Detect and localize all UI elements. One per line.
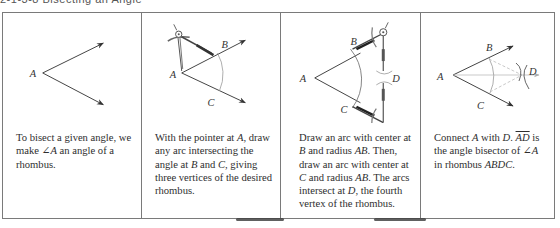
vertex-label-c: C <box>341 104 349 115</box>
vertex-label-a: A <box>436 71 444 82</box>
step-3-figure: A B C D <box>281 13 420 123</box>
vertex-label-c: C <box>477 100 485 111</box>
compass-upper-icon <box>352 22 388 71</box>
step-4-figure: A B C D <box>421 13 555 123</box>
angle-bisector-diagram: A B C D <box>421 13 555 123</box>
step-3-panel: A B C D Draw an arc with center at B and… <box>281 13 421 218</box>
vertex-label-c: C <box>208 97 216 108</box>
compass-lower-icon <box>352 83 384 123</box>
step-1-caption: To bisect a given angle, we make ∠A an a… <box>16 131 135 171</box>
arc-from-a-diagram: A B C <box>142 13 280 123</box>
arcs-from-b-and-c-diagram: A B C D <box>281 13 420 123</box>
figure-title: 2-1-3-8 Bisecting an Angle <box>0 0 142 5</box>
step-3-caption: Draw an arc with center at B and radius … <box>299 131 414 211</box>
construction-steps-table: A To bisect a given angle, we make ∠A an… <box>2 12 555 219</box>
step-2-panel: A B C With the pointer at A, draw any ar… <box>142 13 281 218</box>
step-2-caption: With the pointer at A, draw any arc inte… <box>155 131 274 197</box>
page-shadow-1 <box>236 218 284 221</box>
step-4-caption: Connect A with D. AD is the angle bisect… <box>434 131 549 171</box>
step-2-figure: A B C <box>142 13 280 123</box>
vertex-label-b: B <box>486 42 493 53</box>
compass-icon <box>168 24 214 71</box>
page-shadow-2 <box>374 218 426 221</box>
vertex-label-b: B <box>351 36 358 47</box>
step-4-panel: A B C D Connect A with D. AD is the angl… <box>421 13 555 218</box>
ray-ad-notation: AD <box>516 132 530 143</box>
vertex-label-a: A <box>169 69 177 80</box>
vertex-label-a: A <box>29 68 37 79</box>
vertex-label-b: B <box>221 39 228 50</box>
step-1-panel: A To bisect a given angle, we make ∠A an… <box>3 13 142 218</box>
step-1-figure: A <box>3 13 141 123</box>
given-angle-diagram: A <box>3 13 141 123</box>
vertex-label-d: D <box>391 73 400 84</box>
vertex-label-d: D <box>528 66 537 77</box>
vertex-label-a: A <box>299 73 307 84</box>
